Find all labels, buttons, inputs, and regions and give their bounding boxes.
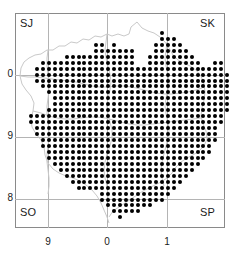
gridline-horizontal xyxy=(15,199,225,200)
grid-square-label-sp: SP xyxy=(200,206,215,218)
grid-square-label-sj: SJ xyxy=(20,17,33,29)
record-dot xyxy=(225,102,229,106)
x-tick-label: 1 xyxy=(161,236,173,247)
record-dot xyxy=(225,73,229,77)
grid-square-label-sk: SK xyxy=(200,17,215,29)
gridline-horizontal xyxy=(15,137,225,138)
gridline-horizontal xyxy=(15,75,225,76)
x-tick-label: 0 xyxy=(101,236,113,247)
grid-square-label-so: SO xyxy=(20,206,36,218)
distribution-map-figure: SJ SK SO SP 098901 xyxy=(0,0,239,253)
record-dot xyxy=(225,84,229,88)
record-dot xyxy=(225,108,229,112)
y-tick-label: 8 xyxy=(2,192,13,203)
y-tick-label: 9 xyxy=(2,130,13,141)
gridline-vertical xyxy=(167,13,168,228)
record-dot xyxy=(225,96,229,100)
gridline-vertical xyxy=(107,13,108,228)
gridline-vertical xyxy=(48,13,49,228)
plot-frame xyxy=(15,13,225,228)
record-dot xyxy=(225,79,229,83)
record-dot xyxy=(225,90,229,94)
y-tick-label: 0 xyxy=(2,68,13,79)
x-tick-label: 9 xyxy=(42,236,54,247)
